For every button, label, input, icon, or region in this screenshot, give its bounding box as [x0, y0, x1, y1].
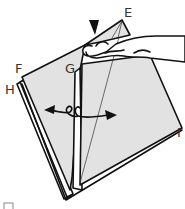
label-f: F [15, 61, 22, 76]
step-marker-box [4, 203, 13, 209]
label-i: I [177, 125, 181, 140]
label-g: G [65, 61, 75, 76]
right-flap [80, 55, 182, 185]
origami-diagram: E F G H I [0, 0, 185, 209]
push-arrow-icon [89, 20, 99, 35]
label-h: H [5, 82, 15, 97]
label-e: E [124, 5, 132, 20]
